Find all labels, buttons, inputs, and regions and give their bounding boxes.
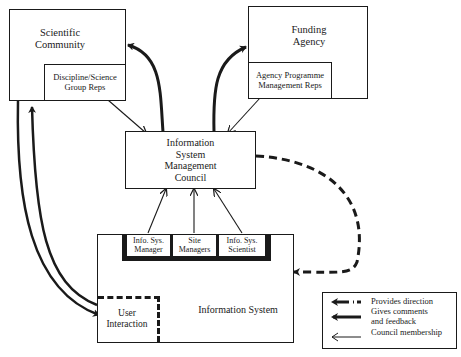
user-interaction-box: User Interaction <box>98 296 160 342</box>
info-sys-manager-box: Info. Sys. Manager <box>126 234 171 257</box>
arrow-council-to-scientific <box>128 45 163 132</box>
legend-direction-label: Provides direction <box>371 296 442 306</box>
arrow-iss-to-council <box>214 189 242 233</box>
arrow-scientific-to-user <box>18 101 99 315</box>
scientific-community-label: Scientific Community <box>30 27 90 51</box>
arrow-discipline-to-council <box>108 100 146 133</box>
agency-reps-box: Agency Programme Management Reps <box>248 62 332 99</box>
discipline-reps-box: Discipline/Science Group Reps <box>44 64 126 101</box>
funding-agency-label: Funding Agency <box>279 24 339 48</box>
arrow-council-to-funding <box>214 47 246 132</box>
info-sys-scientist-box: Info. Sys. Scientist <box>218 234 266 257</box>
legend-comments-label: Gives comments <box>371 306 442 316</box>
information-system-label: Information System <box>183 304 293 316</box>
legend-membership-label: Council membership <box>371 327 442 337</box>
site-managers-box: Site Managers <box>172 234 217 257</box>
arrow-ism-to-council <box>148 189 166 233</box>
arrow-agency-to-council <box>228 98 260 133</box>
council-label: Information System Management Council <box>126 137 255 183</box>
arrow-user-to-scientific <box>32 107 97 305</box>
legend: Provides direction Gives comments and fe… <box>322 292 457 349</box>
council-box: Information System Management Council <box>125 131 256 189</box>
